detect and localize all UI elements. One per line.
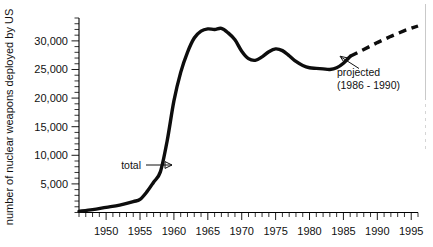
x-axis-tick-label: 1980 [297, 225, 321, 237]
x-axis-tick-label: 1970 [229, 225, 253, 237]
y-axis-title: number of nuclear weapons deployed by US [3, 9, 15, 225]
x-axis-tick-label: 1995 [399, 225, 423, 237]
annotation-projected-label-line2: (1986 - 1990) [337, 79, 400, 91]
x-axis-ticks [79, 213, 418, 221]
x-axis-tick-label: 1960 [162, 225, 186, 237]
y-axis-tick-label: 20,000 [34, 92, 68, 104]
x-axis-tick-label: 1975 [263, 225, 287, 237]
y-axis-tick-label: 10,000 [34, 149, 68, 161]
y-axis-tick-label: 15,000 [34, 121, 68, 133]
x-axis-tick-labels: 1950195519601965197019751980198519901995 [94, 225, 424, 237]
x-axis-tick-label: 1990 [365, 225, 389, 237]
x-axis-tick-label: 1965 [196, 225, 220, 237]
series-line-total [79, 28, 350, 211]
x-axis-tick-label: 1955 [128, 225, 152, 237]
x-axis-tick-label: 1985 [331, 225, 355, 237]
y-axis-tick-label: 25,000 [34, 63, 68, 75]
x-axis-tick-label: 1950 [94, 225, 118, 237]
y-axis-tick-label: 5,000 [40, 178, 68, 190]
series-line-projected [350, 26, 418, 56]
nuclear-weapons-line-chart: number of nuclear weapons deployed by US… [0, 0, 433, 247]
y-axis-tick-label: 30,000 [34, 35, 68, 47]
annotation-total-label: total [121, 159, 141, 171]
y-axis-tick-labels: 5,00010,00015,00020,00025,00030,000 [34, 35, 68, 190]
y-axis-ticks [72, 18, 80, 213]
chart-container: number of nuclear weapons deployed by US… [0, 0, 433, 247]
